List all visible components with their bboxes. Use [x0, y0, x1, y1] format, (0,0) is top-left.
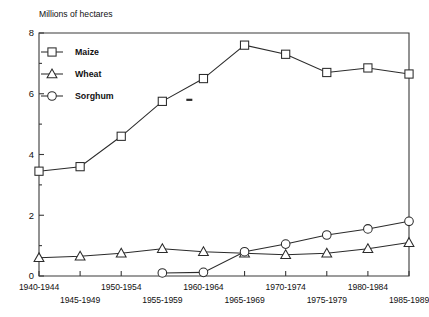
line-chart: Millions of hectares 02468 1940-19441945…	[0, 0, 429, 317]
data-point-maize	[282, 50, 290, 58]
data-point-maize	[76, 163, 84, 171]
data-point-wheat	[404, 238, 414, 247]
y-axis-ticks	[39, 33, 44, 276]
legend-marker-maize	[48, 48, 56, 56]
legend-entry-sorghum[interactable]: Sorghum	[41, 91, 114, 101]
series-line-maize	[39, 45, 409, 171]
data-point-maize	[405, 70, 413, 78]
x-axis-tick-labels: 1940-19441945-19491950-19541955-19591960…	[19, 282, 429, 305]
y-axis-tick-label: 2	[29, 210, 34, 221]
x-axis-tick-label: 1940-1944	[19, 282, 60, 292]
data-point-maize	[117, 132, 125, 140]
chart-container: Millions of hectares 02468 1940-19441945…	[0, 0, 429, 317]
data-point-maize	[199, 74, 207, 82]
data-point-sorghum	[199, 268, 208, 277]
x-axis-tick-label: 1945-1949	[60, 295, 101, 305]
x-axis-tick-label: 1955-1959	[142, 295, 183, 305]
data-point-wheat	[157, 244, 167, 253]
y-axis-tick-label: 8	[29, 27, 34, 38]
x-axis-tick-label: 1965-1969	[224, 295, 265, 305]
annotation-layer	[186, 99, 192, 101]
x-axis-tick-label: 1960-1964	[183, 282, 224, 292]
legend-marker-sorghum	[48, 92, 57, 101]
x-axis-tick-label: 1985-1989	[389, 295, 429, 305]
chart-axis-title: Millions of hectares	[39, 9, 113, 19]
data-point-maize	[35, 167, 43, 175]
legend-label: Wheat	[75, 69, 101, 79]
chart-legend: MaizeWheatSorghum	[41, 47, 114, 101]
x-axis-tick-label: 1950-1954	[101, 282, 142, 292]
x-axis-tick-label: 1970-1974	[266, 282, 307, 292]
data-point-sorghum	[405, 217, 414, 226]
y-axis-tick-labels: 02468	[29, 27, 34, 281]
series-maize	[35, 41, 413, 175]
x-axis-ticks	[39, 271, 409, 276]
data-point-maize	[323, 68, 331, 76]
legend-marker-wheat	[47, 69, 57, 78]
data-point-maize	[158, 97, 166, 105]
series-line-wheat	[39, 243, 409, 258]
y-axis-tick-label: 0	[29, 270, 34, 281]
series-wheat	[34, 238, 414, 262]
data-point-maize	[240, 41, 248, 49]
data-point-sorghum	[364, 225, 373, 234]
data-point-sorghum	[281, 240, 290, 249]
legend-entry-maize[interactable]: Maize	[41, 47, 99, 57]
legend-label: Sorghum	[75, 91, 114, 101]
legend-label: Maize	[75, 47, 99, 57]
legend-entry-wheat[interactable]: Wheat	[41, 69, 101, 79]
y-axis-tick-label: 6	[29, 88, 34, 99]
data-point-sorghum	[158, 269, 167, 278]
data-point-sorghum	[240, 247, 249, 256]
stray-dash-mark	[186, 99, 192, 101]
y-axis-tick-label: 4	[29, 149, 34, 160]
data-point-sorghum	[322, 231, 331, 240]
x-axis-tick-label: 1980-1984	[348, 282, 389, 292]
data-point-maize	[364, 64, 372, 72]
x-axis-tick-label: 1975-1979	[307, 295, 348, 305]
